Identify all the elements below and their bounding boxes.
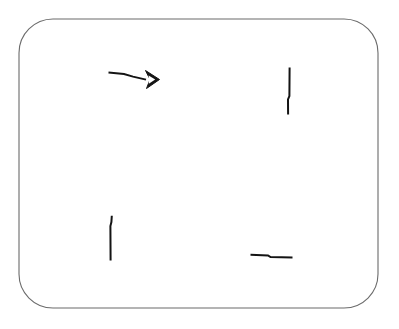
tick-right-upper xyxy=(288,68,290,115)
sketch-canvas xyxy=(0,0,399,329)
arrow-right-shaft xyxy=(109,73,147,80)
sketch-surface xyxy=(0,0,399,329)
tick-left-lower xyxy=(110,216,111,261)
rounded-rectangle-border xyxy=(19,19,378,308)
tick-bottom-horizontal xyxy=(251,255,293,258)
